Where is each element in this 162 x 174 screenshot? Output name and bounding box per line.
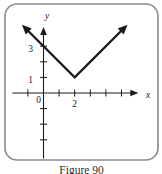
- y-tick-label: 3: [28, 44, 33, 54]
- graph-line-v-graph: [24, 27, 125, 78]
- x-tick-label: 2: [72, 99, 77, 109]
- figure-card: 2310xy Figure 90: [0, 0, 162, 174]
- y-axis-label: y: [44, 11, 50, 21]
- y-tick-label: 1: [28, 75, 33, 85]
- origin-label: 0: [36, 95, 41, 105]
- x-axis-label: x: [145, 90, 151, 100]
- graph-canvas: 2310xy: [0, 0, 162, 174]
- figure-caption: Figure 90: [5, 164, 158, 174]
